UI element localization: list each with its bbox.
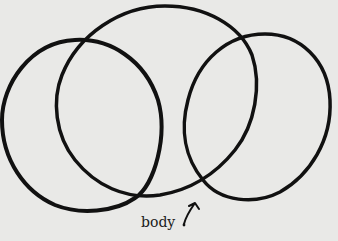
left-oval <box>2 40 161 211</box>
diagram-canvas: body <box>0 0 338 241</box>
arrow-icon <box>184 203 199 224</box>
body-label: body <box>141 214 175 230</box>
